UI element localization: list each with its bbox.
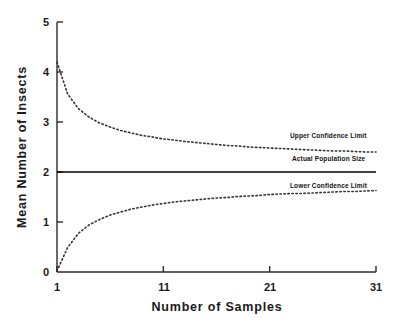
y-axis-ticks (57, 22, 63, 222)
series-upper-confidence-limit (57, 62, 376, 152)
data-series-group (57, 62, 376, 271)
series-lower-confidence-limit (57, 191, 376, 272)
chart-figure: Mean Number of Insects 5 4 3 2 1 0 1 11 … (0, 0, 401, 327)
x-axis-ticks (57, 266, 376, 272)
plot-area (0, 0, 401, 327)
axes-group (57, 22, 376, 272)
